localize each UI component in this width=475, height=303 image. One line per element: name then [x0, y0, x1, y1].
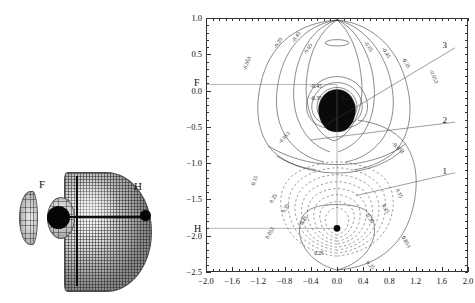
- y-minor-tick: [465, 112, 468, 113]
- y-minor-tick: [465, 47, 468, 48]
- y-minor-tick: [465, 265, 468, 266]
- x-minor-tick: [455, 269, 456, 272]
- svg-text:-0.35: -0.35: [401, 56, 412, 69]
- y-minor-tick: [465, 178, 468, 179]
- y-minor-tick: [206, 221, 209, 222]
- y-minor-tick: [206, 98, 209, 99]
- callout-1: 1: [443, 166, 448, 176]
- x-tick-label: −1.6: [224, 276, 239, 286]
- y-minor-tick: [465, 76, 468, 77]
- x-minor-tick: [376, 269, 377, 272]
- y-minor-tick: [206, 192, 209, 193]
- y-minor-tick: [206, 141, 209, 142]
- x-minor-tick: [396, 18, 397, 21]
- y-minor-tick: [206, 25, 209, 26]
- x-minor-tick: [448, 269, 449, 272]
- y-tick-label: −1.0: [187, 158, 202, 168]
- y-minor-tick: [465, 192, 468, 193]
- figure-root: F H: [0, 0, 475, 303]
- svg-text:-0.15: -0.15: [340, 95, 352, 101]
- x-minor-tick: [357, 269, 358, 272]
- y-minor-tick: [465, 199, 468, 200]
- x-minor-tick: [422, 18, 423, 21]
- x-tick-label: 2.0: [463, 276, 474, 286]
- atom-label-hydrogen: H: [134, 180, 142, 192]
- x-minor-tick: [370, 18, 371, 21]
- x-minor-tick: [357, 18, 358, 21]
- x-minor-tick: [370, 269, 371, 272]
- y-minor-tick: [465, 25, 468, 26]
- x-minor-tick: [239, 18, 240, 21]
- callout-3: 3: [443, 40, 448, 50]
- x-minor-tick: [383, 18, 384, 21]
- y-major-tick: [206, 199, 211, 200]
- contour-value-labels: -0.053 -0.25 -0.45 -0.65 -0.65 -0.45 -0.…: [241, 30, 440, 270]
- x-minor-tick: [219, 18, 220, 21]
- x-tick-label: 1.2: [410, 276, 421, 286]
- callout-2: 2: [443, 115, 448, 125]
- x-minor-tick: [324, 269, 325, 272]
- x-minor-tick: [461, 18, 462, 21]
- x-minor-tick: [403, 269, 404, 272]
- svg-text:0.45: 0.45: [298, 214, 309, 226]
- y-minor-tick: [206, 170, 209, 171]
- x-minor-tick: [252, 269, 253, 272]
- x-minor-tick: [252, 18, 253, 21]
- x-minor-tick: [350, 269, 351, 272]
- svg-text:-0.45: -0.45: [310, 83, 322, 89]
- y-minor-tick: [465, 98, 468, 99]
- svg-text:0.053: 0.053: [401, 235, 413, 249]
- x-major-tick: [416, 267, 417, 272]
- y-minor-tick: [465, 62, 468, 63]
- y-minor-tick: [465, 185, 468, 186]
- y-minor-tick: [206, 149, 209, 150]
- x-major-tick: [232, 267, 233, 272]
- svg-text:0.053: 0.053: [264, 226, 275, 240]
- x-minor-tick: [317, 18, 318, 21]
- contour-panel: -0.053 -0.25 -0.45 -0.65 -0.65 -0.45 -0.…: [196, 0, 475, 303]
- x-major-tick: [468, 267, 469, 272]
- svg-text:-0.35: -0.35: [310, 95, 322, 101]
- y-minor-tick: [465, 221, 468, 222]
- plot-frame: -0.053 -0.25 -0.45 -0.65 -0.65 -0.45 -0.…: [206, 18, 468, 272]
- y-minor-tick: [465, 127, 468, 128]
- y-major-tick: [206, 18, 211, 19]
- y-minor-tick: [206, 250, 209, 251]
- x-tick-label: 0.0: [332, 276, 343, 286]
- y-minor-tick: [206, 62, 209, 63]
- x-minor-tick: [344, 18, 345, 21]
- x-minor-tick: [383, 269, 384, 272]
- x-minor-tick: [213, 18, 214, 21]
- x-minor-tick: [278, 18, 279, 21]
- y-minor-tick: [465, 228, 468, 229]
- x-minor-tick: [226, 18, 227, 21]
- svg-text:-0.65: -0.65: [363, 40, 375, 53]
- x-minor-tick: [344, 269, 345, 272]
- orbital-lobe-small: [19, 191, 38, 245]
- x-minor-tick: [239, 269, 240, 272]
- x-minor-tick: [330, 18, 331, 21]
- nuclei-markers: [334, 225, 341, 232]
- x-tick-label: −2.0: [198, 276, 213, 286]
- x-minor-tick: [409, 269, 410, 272]
- y-minor-tick: [465, 214, 468, 215]
- x-minor-tick: [213, 269, 214, 272]
- svg-text:-0.053: -0.053: [241, 55, 252, 71]
- y-minor-tick: [206, 33, 209, 34]
- x-minor-tick: [245, 18, 246, 21]
- x-major-tick: [363, 267, 364, 272]
- x-major-tick: [258, 267, 259, 272]
- x-tick-label: 0.4: [358, 276, 369, 286]
- x-minor-tick: [429, 269, 430, 272]
- svg-text:-0.45: -0.45: [290, 30, 302, 43]
- x-major-tick: [337, 267, 338, 272]
- svg-text:-0.053: -0.053: [391, 140, 406, 154]
- axis-label-fluorine: F: [194, 77, 200, 88]
- nodal-plane-line: [76, 176, 78, 286]
- nucleus-fluorine: [47, 206, 70, 229]
- y-minor-tick: [206, 178, 209, 179]
- contour-field: -0.053 -0.25 -0.45 -0.65 -0.65 -0.45 -0.…: [207, 19, 467, 271]
- y-minor-tick: [465, 207, 468, 208]
- y-minor-tick: [206, 185, 209, 186]
- svg-text:-0.053: -0.053: [277, 130, 291, 145]
